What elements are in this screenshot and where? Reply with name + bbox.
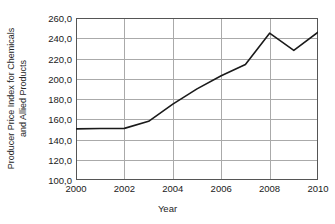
y-axis-tick-label: 200,0 (38, 73, 72, 84)
y-axis-title-line-2: and Allied Products (18, 27, 30, 169)
y-axis-tick-label: 180,0 (38, 94, 72, 105)
x-axis-tick-label: 2006 (211, 183, 232, 194)
x-axis-tick-labels: 200020022004200620082010 (0, 183, 335, 197)
x-axis-tick-label: 2004 (162, 183, 183, 194)
plot-svg (76, 18, 318, 180)
y-axis-title: Producer Price Index for Chemicals and A… (0, 0, 36, 196)
y-axis-tick-label: 240,0 (38, 33, 72, 44)
y-axis-title-line-1: Producer Price Index for Chemicals (7, 27, 19, 169)
plot-area (76, 18, 318, 180)
y-axis-tick-label: 160,0 (38, 114, 72, 125)
y-axis-tick-label: 260,0 (38, 13, 72, 24)
x-axis-tick-label: 2002 (114, 183, 135, 194)
y-axis-tick-label: 140,0 (38, 134, 72, 145)
horizontal-gridlines (76, 39, 318, 161)
x-axis-title: Year (0, 203, 335, 214)
line-chart: Producer Price Index for Chemicals and A… (0, 0, 335, 224)
x-axis-tick-label: 2008 (259, 183, 280, 194)
y-axis-tick-label: 220,0 (38, 53, 72, 64)
y-axis-tick-label: 120,0 (38, 154, 72, 165)
x-axis-tick-label: 2000 (65, 183, 86, 194)
data-series-line (76, 32, 318, 129)
x-axis-tick-label: 2010 (307, 183, 328, 194)
